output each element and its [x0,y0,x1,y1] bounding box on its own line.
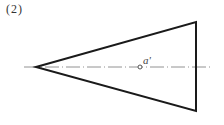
projection-diagram [0,0,224,125]
triangle-outline [36,22,196,111]
point-a-prime-marker [138,65,142,69]
point-a-prime-label: a' [143,54,151,66]
